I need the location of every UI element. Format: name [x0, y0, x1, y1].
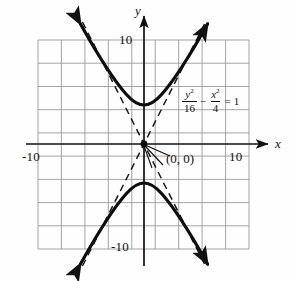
x-axis-letter: x	[275, 137, 281, 150]
second-fraction-numerator: x2	[209, 88, 221, 101]
y-axis-letter: y	[135, 4, 141, 17]
second-fraction-denominator: 4	[211, 101, 221, 114]
equals-sign: =	[223, 95, 233, 107]
plot-canvas	[0, 0, 295, 281]
equation-rhs: 1	[234, 95, 240, 107]
first-fraction-denominator: 16	[182, 101, 197, 114]
first-fraction: y2 16	[182, 88, 197, 114]
x-axis-tick-neg10: -10	[22, 150, 40, 163]
equation-label: y2 16 − x2 4 = 1	[182, 88, 239, 114]
second-fraction: x2 4	[209, 88, 221, 114]
x-axis-tick-10: 10	[229, 150, 242, 163]
y-axis-tick-neg10: -10	[111, 240, 129, 253]
x-exponent: 2	[216, 87, 220, 95]
y-exponent: 2	[190, 87, 194, 95]
axis-lines	[26, 16, 268, 266]
minus-operator: −	[198, 95, 208, 107]
y-axis-tick-10: 10	[119, 33, 132, 46]
hyperbola-figure: y x 10 -10 -10 10 (0, 0) y2 16 − x2 4 = …	[0, 0, 295, 281]
first-fraction-numerator: y2	[183, 88, 195, 101]
origin-label: (0, 0)	[166, 152, 194, 165]
